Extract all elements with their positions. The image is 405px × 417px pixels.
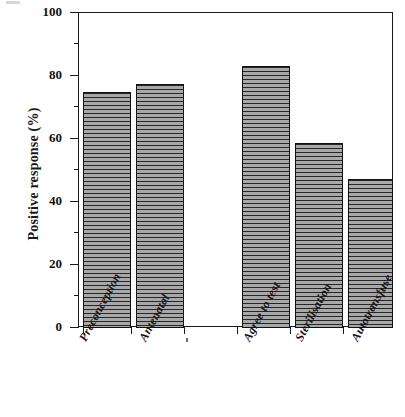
y-tick-label-60: 60 xyxy=(22,130,62,146)
scan-speck xyxy=(186,338,188,342)
y-tick-label-100: 100 xyxy=(22,4,62,20)
x-tick xyxy=(237,327,238,334)
y-tick-label-0: 0 xyxy=(22,319,62,335)
scan-artifact xyxy=(6,1,20,4)
x-tick xyxy=(290,327,291,334)
x-tick xyxy=(343,327,344,334)
y-tick-label-80: 80 xyxy=(22,67,62,83)
y-tick-major xyxy=(70,327,79,328)
bar-chart: Positive response (%) 0 20 40 60 80 100 … xyxy=(0,0,405,417)
x-tick xyxy=(131,327,132,334)
y-tick-label-20: 20 xyxy=(22,256,62,272)
y-tick-label-40: 40 xyxy=(22,193,62,209)
x-tick xyxy=(184,327,185,334)
